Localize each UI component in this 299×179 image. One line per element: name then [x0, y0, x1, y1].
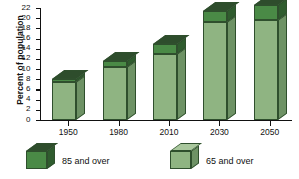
- legend-label: 65 and over: [206, 156, 254, 167]
- y-axis-tick-label: 8: [26, 74, 30, 84]
- legend-swatch-icon: [170, 151, 191, 169]
- x-axis-tick: [119, 121, 120, 126]
- y-axis-tick: 16: [36, 39, 42, 40]
- y-axis-tick-label: 20: [22, 13, 31, 23]
- swatch-front-face: [26, 151, 47, 169]
- bar-segment-85-and-over: [153, 44, 177, 54]
- y-axis-tick: 2: [36, 110, 42, 111]
- y-axis-tick: 18: [36, 28, 42, 29]
- y-axis-tick-label: 0: [26, 115, 30, 125]
- x-axis-tick: [270, 121, 271, 126]
- bar-segment-85-and-over: [203, 11, 227, 22]
- bar-segment-65-and-over: [203, 22, 227, 120]
- bar-front-face: [103, 61, 127, 67]
- y-axis-tick-label: 10: [22, 64, 31, 74]
- stacked-bar-chart-figure: Percent of population 024681012141618202…: [0, 0, 299, 179]
- legend-label: 85 and over: [62, 156, 110, 167]
- y-axis-tick: 22: [36, 8, 42, 9]
- bar-front-face: [52, 79, 76, 82]
- bar-side-face: [127, 60, 136, 120]
- y-axis-tick-label: 14: [22, 43, 31, 53]
- bar-front-face: [153, 54, 177, 120]
- y-axis-tick-label: 4: [26, 94, 30, 104]
- y-axis-tick-label: 16: [22, 33, 31, 43]
- y-axis-tick: 6: [36, 89, 42, 90]
- bar-side-face: [177, 47, 186, 120]
- bar-2050: [254, 5, 278, 120]
- y-axis-line: [40, 8, 41, 121]
- y-axis-tick-label: 2: [26, 104, 30, 114]
- legend-swatch-icon: [26, 151, 47, 169]
- bar-side-face: [227, 15, 236, 120]
- y-axis-tick: 8: [36, 79, 42, 80]
- x-axis-tick: [169, 121, 170, 126]
- x-axis-tick-label: 1950: [59, 127, 78, 138]
- y-axis-tick-label: 22: [22, 3, 31, 13]
- bar-front-face: [254, 20, 278, 120]
- bar-side-face: [76, 75, 85, 120]
- bar-2010: [153, 44, 177, 120]
- chart-legend: 85 and over65 and over: [26, 142, 299, 179]
- y-axis-tick: 14: [36, 49, 42, 50]
- bar-1950: [52, 79, 76, 120]
- bar-segment-65-and-over: [153, 54, 177, 120]
- x-axis-line: [40, 120, 292, 121]
- bar-front-face: [103, 67, 127, 120]
- x-axis-tick: [219, 121, 220, 126]
- bar-2030: [203, 11, 227, 120]
- bar-segment-65-and-over: [52, 82, 76, 120]
- bar-1980: [103, 61, 127, 120]
- bar-segment-85-and-over: [103, 61, 127, 67]
- y-axis-tick: 12: [36, 59, 42, 60]
- bar-front-face: [254, 5, 278, 20]
- x-axis-tick-label: 2010: [160, 127, 179, 138]
- swatch-front-face: [170, 151, 191, 169]
- bar-front-face: [203, 11, 227, 22]
- bar-segment-85-and-over: [52, 79, 76, 82]
- bar-segment-65-and-over: [254, 20, 278, 120]
- bar-segment-65-and-over: [103, 67, 127, 120]
- plot-area: 0246810121416182022 19501980201020302050: [40, 8, 292, 121]
- y-axis-tick: 20: [36, 18, 42, 19]
- y-axis-tick-label: 12: [22, 53, 31, 63]
- x-axis-tick: [68, 121, 69, 126]
- bar-front-face: [153, 44, 177, 54]
- bar-side-face: [278, 14, 287, 120]
- x-axis-tick-label: 2030: [210, 127, 229, 138]
- y-axis-tick: 4: [36, 100, 42, 101]
- x-axis-tick-label: 2050: [260, 127, 279, 138]
- bar-front-face: [52, 82, 76, 120]
- y-axis-tick: 0: [36, 120, 42, 121]
- y-axis-tick-label: 6: [26, 84, 30, 94]
- y-axis-tick: 10: [36, 69, 42, 70]
- y-axis-tick-label: 18: [22, 23, 31, 33]
- x-axis-tick-label: 1980: [109, 127, 128, 138]
- bar-segment-85-and-over: [254, 5, 278, 20]
- bar-front-face: [203, 22, 227, 120]
